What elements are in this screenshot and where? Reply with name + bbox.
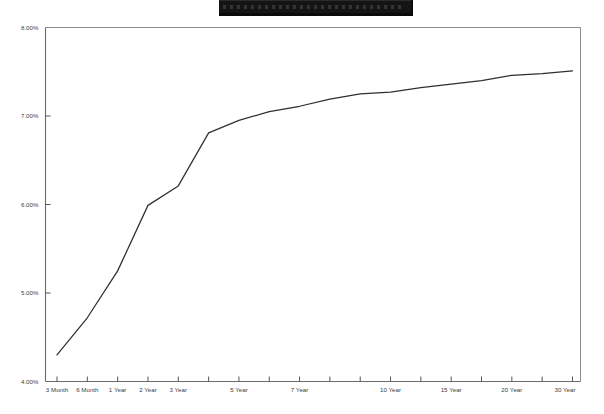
x-tick-label: 10 Year bbox=[380, 386, 401, 393]
y-axis-tick-labels: 8.00%7.00%6.00%5.00%4.00% bbox=[21, 24, 39, 385]
y-axis-ticks bbox=[46, 116, 51, 293]
yield-curve-line bbox=[57, 71, 572, 355]
x-tick-label: 15 Year bbox=[441, 386, 462, 393]
y-tick-label: 8.00% bbox=[21, 24, 39, 31]
x-axis-ticks bbox=[57, 377, 572, 382]
chart-canvas: 8.00%7.00%6.00%5.00%4.00% 3 Month6 Month… bbox=[0, 0, 604, 414]
x-tick-label: 30 Year bbox=[554, 386, 575, 393]
x-tick-label: 7 Year bbox=[291, 386, 309, 393]
x-tick-label: 2 Year bbox=[139, 386, 157, 393]
x-tick-label: 20 Year bbox=[501, 386, 522, 393]
y-tick-label: 6.00% bbox=[21, 201, 39, 208]
series-yield-curve bbox=[57, 71, 572, 355]
x-tick-label: 3 Year bbox=[170, 386, 188, 393]
x-tick-label: 5 Year bbox=[230, 386, 248, 393]
y-tick-label: 5.00% bbox=[21, 289, 39, 296]
x-tick-label: 3 Month bbox=[46, 386, 69, 393]
x-axis-tick-labels: 3 Month6 Month1 Year2 Year3 Year5 Year7 … bbox=[46, 386, 576, 393]
plot-frame bbox=[46, 28, 581, 382]
x-tick-label: 1 Year bbox=[109, 386, 127, 393]
yield-curve-chart: 8.00%7.00%6.00%5.00%4.00% 3 Month6 Month… bbox=[0, 0, 604, 414]
x-tick-label: 6 Month bbox=[76, 386, 99, 393]
y-tick-label: 7.00% bbox=[21, 112, 39, 119]
y-tick-label: 4.00% bbox=[21, 378, 39, 385]
